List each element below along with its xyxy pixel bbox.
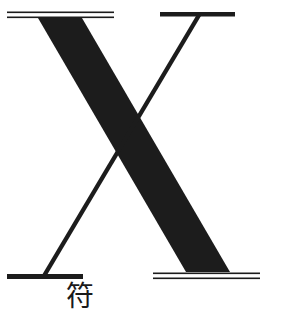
top-left-double-serif [7,12,114,19]
cropped-caption-character: 符 [66,283,94,311]
top-right-serif [160,12,235,17]
bottom-left-serif [7,274,83,279]
bottom-right-double-serif [153,273,260,280]
